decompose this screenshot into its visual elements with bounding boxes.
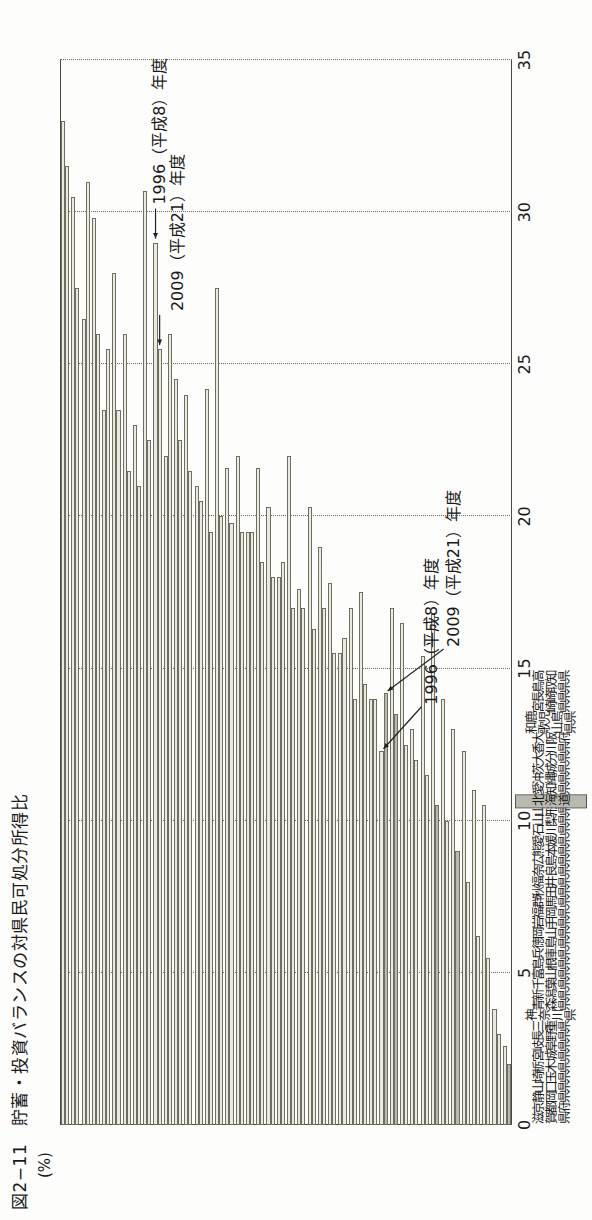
annotation-arrow [157,315,162,345]
annotation-2009-top: 2009（平成21）年度 [164,154,188,311]
annotation-arrow [384,707,422,749]
annotation-arrow [153,209,158,239]
annotation-2009-hokkaido: 2009（平成21）年度 [440,490,464,647]
figure-title: 図2−11 貯蓄・投資バランスの対県民可処分所得比 [6,794,31,1210]
annotation-1996-hokkaido: 1996（平成8）年度 [418,558,442,705]
axis-unit-label: (%) [36,1152,54,1178]
category-label: 高知県 [516,672,586,685]
category-labels: 滋賀県京都府静岡県山口県埼玉県栃木県宮城県岐阜県長野県三重県神奈川県青森県新潟県… [516,60,588,1125]
figure-stage: 図2−11 貯蓄・投資バランスの対県民可処分所得比 (%) 0510152025… [0,0,592,1220]
